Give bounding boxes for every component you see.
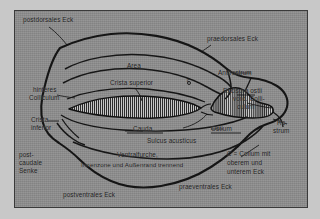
label-rostrum-line1: Ro- xyxy=(277,119,288,127)
label-postcaudale-senke-line3: Senke xyxy=(19,167,38,175)
label-hinteres-colliculum-line1: hinteres xyxy=(33,86,57,94)
label-hinteres-colliculum-line2: Colliculum xyxy=(29,94,59,102)
leader-praedorsales xyxy=(201,45,211,52)
label-praedorsales-eck: praedorsales Eck xyxy=(207,35,258,43)
label-legend-line2: oberem und xyxy=(227,159,262,167)
label-postventrales-eck: postventrales Eck xyxy=(63,191,115,199)
label-crista-inferior-line1: Crista xyxy=(31,116,48,124)
label-collum-marker: c xyxy=(187,77,190,83)
label-excisura-ostii-line3: culum xyxy=(237,103,255,111)
label-legend-line1: C = Collum mit xyxy=(227,150,270,158)
label-area: Area xyxy=(127,62,141,70)
label-legend-line3: unterem Eck xyxy=(227,168,264,176)
crista-inferior-path xyxy=(57,123,85,145)
label-praeventrales-eck: praeventrales Eck xyxy=(179,183,232,191)
label-antirostrum: Antirostrum xyxy=(218,69,252,77)
cauda-hatched-region xyxy=(69,96,201,118)
label-crista-inferior-line2: inferior xyxy=(31,124,51,132)
label-sulcus-acusticus: Sulcus acusticus xyxy=(147,137,196,145)
label-rostrum-line2: strum xyxy=(273,127,289,135)
label-crista-superior: Crista superior xyxy=(110,79,153,87)
otolith-drawing xyxy=(15,11,307,207)
label-postdorsales-eck: postdorsales Eck xyxy=(23,16,73,24)
illustration-plate: postdorsales Eck praedorsales Eck Area C… xyxy=(14,10,308,208)
collum-path xyxy=(201,104,211,108)
label-postcaudale-senke-line2: caudale xyxy=(19,159,42,167)
figure-root: postdorsales Eck praedorsales Eck Area C… xyxy=(0,0,320,219)
leader-postdorsales xyxy=(49,27,67,45)
leader-ostium xyxy=(183,114,207,128)
label-ventralfurche-line2: Innenzone und Außenrand trennend xyxy=(81,161,183,169)
label-ventralfurche-line1: Ventralfurche, xyxy=(117,151,158,159)
label-excisura-ostii-line1: Excisura ostii xyxy=(223,87,262,95)
label-cauda: Cauda xyxy=(133,125,152,133)
label-excisura-ostii-line2: vord. Colli- xyxy=(233,95,265,103)
label-ostium: Ostium xyxy=(211,125,232,133)
label-postcaudale-senke-line1: post- xyxy=(19,151,34,159)
